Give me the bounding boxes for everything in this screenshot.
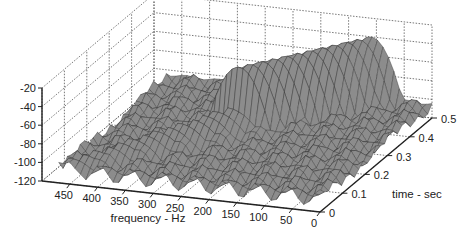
- x-tick-label: 350: [110, 195, 128, 207]
- y-tick-label: 0.5: [441, 113, 456, 125]
- y-tick-label: 0.4: [419, 132, 434, 144]
- x-tick-label: 150: [221, 208, 239, 220]
- x-tick-label: 0: [311, 217, 317, 229]
- x-tick-label: 300: [138, 198, 156, 210]
- x-tick-label: 200: [194, 205, 212, 217]
- z-tick-label: -60: [20, 119, 36, 131]
- x-tick-label: 50: [280, 214, 292, 226]
- x-tick-label: 100: [249, 211, 267, 223]
- y-tick-label: 0.3: [396, 151, 411, 163]
- x-tick-label: 450: [55, 189, 73, 201]
- y-axis-label: time - sec: [392, 188, 442, 200]
- z-axis-ticks: -20-40-60-80-100-120: [14, 82, 42, 187]
- spectrogram-3d-chart: -20-40-60-80-100-120 4504003503002502001…: [0, 0, 465, 239]
- y-tick-label: 0.2: [374, 169, 389, 181]
- z-tick-label: -120: [14, 175, 36, 187]
- x-tick-label: 400: [82, 192, 100, 204]
- x-axis-label: frequency - Hz: [111, 212, 186, 224]
- y-tick-label: 0: [329, 207, 335, 219]
- z-tick-label: -20: [20, 82, 36, 94]
- z-tick-label: -100: [14, 156, 36, 168]
- z-tick-label: -40: [20, 101, 36, 113]
- y-tick-label: 0.1: [351, 188, 366, 200]
- z-tick-label: -80: [20, 138, 36, 150]
